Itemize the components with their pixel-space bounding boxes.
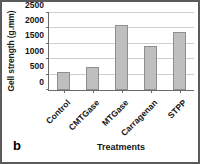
x-tick-label: STPP [166,98,188,120]
y-tick-mark [46,74,49,75]
y-tick-label: 2500 [25,0,44,9]
gridline [49,12,194,13]
y-tick-label: 2000 [25,16,44,25]
y-tick-mark [46,43,49,44]
bar [57,72,70,90]
x-tick-mark [151,90,152,93]
y-tick-mark [46,58,49,59]
bar [86,67,99,90]
figure-panel: Gell strength (g.mm) 0500100015002000250… [0,0,200,164]
y-axis-title: Gell strength (g.mm) [5,9,17,93]
y-axis-title-wrapper: Gell strength (g.mm) [4,10,18,92]
bar [144,46,157,90]
y-tick-label: 1000 [25,46,44,55]
x-tick-mark [64,90,65,93]
x-axis-title: Treatments [48,142,194,152]
bar [115,25,128,90]
panel-label: b [13,138,21,153]
y-tick-label: 0 [39,77,44,86]
bar [173,32,186,90]
plot-area: 05001000150020002500 [48,13,194,91]
y-tick-mark [46,27,49,28]
x-tick-mark [180,90,181,93]
x-tick-label: Control [44,98,71,125]
y-tick-mark [46,12,49,13]
y-tick-label: 1500 [25,31,44,40]
x-tick-mark [93,90,94,93]
y-tick-mark [46,89,49,90]
y-tick-label: 500 [30,62,44,71]
x-tick-mark [122,90,123,93]
